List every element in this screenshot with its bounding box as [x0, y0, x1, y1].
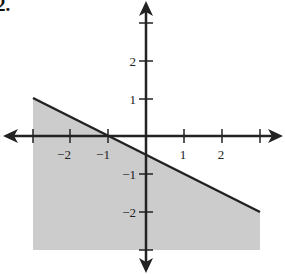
y-tick-label-1: 1	[130, 92, 137, 107]
x-tick-label-neg2: −2	[57, 147, 71, 162]
x-tick-label-2: 2	[218, 147, 225, 162]
y-tick-label-neg1: −1	[122, 167, 136, 182]
x-tick-label-1: 1	[180, 147, 187, 162]
coordinate-plane: −2 −1 1 2 2 1 −1 −2	[0, 0, 285, 274]
y-tick-label-neg2: −2	[122, 205, 136, 220]
y-tick-label-2: 2	[130, 54, 137, 69]
x-tick-label-neg1: −1	[96, 147, 110, 162]
